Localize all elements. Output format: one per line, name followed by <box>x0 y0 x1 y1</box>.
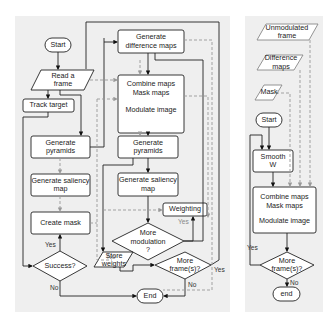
more-frames-decision: More frame(s)? <box>163 257 207 273</box>
generate-pyramids-node: Generate pyramids <box>35 136 86 158</box>
create-mask-node: Create mask <box>31 212 90 234</box>
right-mask-maps-label: Mask maps <box>253 202 316 211</box>
difference-maps-input: Difference maps <box>264 55 298 70</box>
track-target-node: Track target <box>23 99 74 112</box>
generate-saliency-node: Generate saliency map <box>31 174 90 196</box>
weighting-yes-label: Yes <box>178 218 189 225</box>
store-weights-node: Store weights <box>100 253 128 267</box>
unmodulated-frame-input: Unmodulated frame <box>264 24 310 40</box>
start-node: Start <box>45 38 71 52</box>
weighting-node: Weighting <box>163 203 207 216</box>
generate-pyramids2-node: Generate pyramids <box>124 136 172 158</box>
frames-no-label: No <box>188 281 196 288</box>
more-modulation-decision: More modulation ? <box>128 230 168 254</box>
frames-yes-label: Yes <box>214 266 225 273</box>
success-yes-label: Yes <box>45 241 56 248</box>
success-no-label: No <box>50 284 58 291</box>
right-yes-label: Yes <box>247 244 258 251</box>
right-modulate-label: Modulate image <box>253 217 316 226</box>
right-end-node: end <box>273 287 300 301</box>
mask-input: Mask <box>260 85 278 100</box>
right-start-node: Start <box>256 113 282 127</box>
right-no-label: No <box>290 279 298 286</box>
generate-saliency2-node: Generate saliency map <box>118 173 178 196</box>
generate-difference-node: Generate difference maps <box>122 30 180 53</box>
read-frame-node: Read a frame <box>42 72 84 88</box>
smooth-w-node: Smooth W <box>258 150 288 172</box>
right-more-frames-decision: More frame(s)? <box>266 257 308 273</box>
end-node: End <box>137 289 163 303</box>
modulate-image-label: Modulate image <box>118 106 184 115</box>
mask-maps-label: Mask maps <box>118 89 184 98</box>
success-decision: Success? <box>35 258 85 274</box>
